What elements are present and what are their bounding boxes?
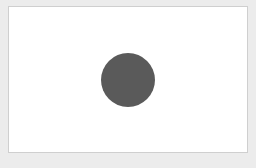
circle-shape [101, 53, 155, 107]
